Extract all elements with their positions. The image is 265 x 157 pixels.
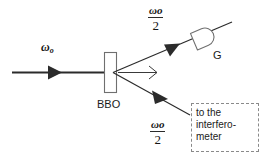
bbo-crystal [105,53,117,93]
interferometer-note-box: to the interfero- meter [191,103,259,152]
signal-fraction-denominator: 2 [152,18,159,32]
signal-beam-label: ωo 2 [148,5,163,32]
idler-beam-label: ωo 2 [150,119,165,146]
signal-omega-symbol: ω [149,4,157,16]
signal-fraction-numerator: ωo [148,5,163,17]
idler-fraction-denominator: 2 [154,132,161,146]
pump-beam-label: ωo [41,41,54,55]
detector-g-body [190,25,216,50]
note-line-3: meter [196,131,258,143]
idler-beam-line [113,73,190,116]
pump-omega-subscript: o [50,46,54,55]
note-line-2: interfero- [196,119,258,131]
note-line-1: to the [196,107,258,119]
signal-omega-subscript: o [157,4,163,16]
idler-fraction-numerator: ωo [150,119,165,131]
idler-omega-subscript: o [159,118,165,130]
pump-omega-symbol: ω [41,40,50,54]
detector-g-label: G [213,50,222,61]
pump-beam-arrowhead [48,66,62,80]
bbo-crystal-label: BBO [97,99,120,110]
diagram-canvas: ωo ωo 2 ωo 2 BBO G to the interfero- met… [0,0,265,157]
idler-omega-symbol: ω [151,118,159,130]
